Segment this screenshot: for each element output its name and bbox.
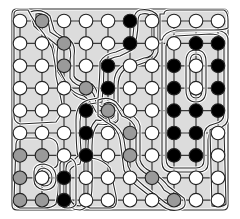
black-stone-r5c8[interactable] [167,104,181,118]
black-stone-r7c8[interactable] [167,149,181,163]
white-stone-r2c4[interactable] [79,37,93,51]
black-stone-r8c3[interactable] [57,171,71,185]
white-stone-r6c5[interactable] [101,126,115,140]
white-stone-r4c6[interactable] [123,81,137,95]
white-stone-r2c1[interactable] [13,37,27,51]
white-stone-r8c6[interactable] [123,171,137,185]
white-stone-r4c9[interactable] [189,81,203,95]
black-stone-r3c5[interactable] [101,59,115,73]
white-stone-r9c6[interactable] [123,193,137,207]
white-stone-r6c3[interactable] [57,126,71,140]
black-stone-r2c9[interactable] [189,37,203,51]
white-stone-r2c2[interactable] [35,37,49,51]
white-stone-r8c5[interactable] [101,171,115,185]
gray-stone-r9c2[interactable] [35,193,49,207]
white-stone-r3c6[interactable] [123,59,137,73]
black-stone-r1c6[interactable] [123,14,137,28]
white-stone-r5c2[interactable] [35,104,49,118]
white-stone-r9c9[interactable] [189,193,203,207]
black-stone-r2c6[interactable] [123,37,137,51]
white-stone-r7c10[interactable] [211,149,225,163]
white-stone-r4c2[interactable] [35,81,49,95]
white-stone-r6c7[interactable] [145,126,159,140]
gray-stone-r2c3[interactable] [57,37,71,51]
white-stone-r9c4[interactable] [79,193,93,207]
white-stone-r8c8[interactable] [167,171,181,185]
white-stone-r2c8[interactable] [167,37,181,51]
black-stone-r4c5[interactable] [101,81,115,95]
white-stone-r2c7[interactable] [145,37,159,51]
white-stone-r4c7[interactable] [145,81,159,95]
black-stone-r3c10[interactable] [211,59,225,73]
black-stone-r5c10[interactable] [211,104,225,118]
gray-stone-r1c2[interactable] [35,14,49,28]
black-stone-r5c9[interactable] [189,104,203,118]
black-stone-r2c10[interactable] [211,37,225,51]
white-stone-r1c8[interactable] [167,14,181,28]
white-stone-r1c1[interactable] [13,14,27,28]
white-stone-r3c2[interactable] [35,59,49,73]
gray-stone-r5c5[interactable] [101,104,115,118]
white-stone-r9c10[interactable] [211,193,225,207]
gray-stone-r9c8[interactable] [167,193,181,207]
white-stone-r1c7[interactable] [145,14,159,28]
white-stone-r8c2[interactable] [35,171,49,185]
gray-stone-r7c1[interactable] [13,149,27,163]
black-stone-r9c3[interactable] [57,193,71,207]
white-stone-r5c1[interactable] [13,104,27,118]
gray-stone-r4c4[interactable] [79,81,93,95]
gray-stone-r7c6[interactable] [123,149,137,163]
white-stone-r3c7[interactable] [145,59,159,73]
white-stone-r6c2[interactable] [35,126,49,140]
white-stone-r7c3[interactable] [57,149,71,163]
white-stone-r1c3[interactable] [57,14,71,28]
gray-stone-r7c2[interactable] [35,149,49,163]
white-stone-r8c9[interactable] [189,171,203,185]
white-stone-r3c1[interactable] [13,59,27,73]
gray-stone-r8c1[interactable] [13,171,27,185]
white-stone-r6c10[interactable] [211,126,225,140]
white-stone-r1c4[interactable] [79,14,93,28]
puzzle-board: Grid loop puzzle [0,0,240,219]
black-stone-r6c4[interactable] [79,126,93,140]
black-stone-r7c9[interactable] [189,149,203,163]
white-stone-r3c9[interactable] [189,59,203,73]
white-stone-r5c3[interactable] [57,104,71,118]
white-stone-r7c7[interactable] [145,149,159,163]
white-stone-r2c5[interactable] [101,37,115,51]
white-stone-r9c7[interactable] [145,193,159,207]
black-stone-r4c8[interactable] [167,81,181,95]
gray-stone-r8c7[interactable] [145,171,159,185]
white-stone-r4c1[interactable] [13,81,27,95]
white-stone-r1c5[interactable] [101,14,115,28]
black-stone-r6c8[interactable] [167,126,181,140]
black-stone-r6c9[interactable] [189,126,203,140]
black-stone-r5c4[interactable] [79,104,93,118]
white-stone-r9c5[interactable] [101,193,115,207]
white-stone-r8c10[interactable] [211,171,225,185]
white-stone-r5c6[interactable] [123,104,137,118]
gray-stone-r6c6[interactable] [123,126,137,140]
white-stone-r4c3[interactable] [57,81,71,95]
black-stone-r3c8[interactable] [167,59,181,73]
white-stone-r3c4[interactable] [79,59,93,73]
white-stone-r1c9[interactable] [189,14,203,28]
white-stone-r5c7[interactable] [145,104,159,118]
white-stone-r7c5[interactable] [101,149,115,163]
white-stone-r8c4[interactable] [79,171,93,185]
black-stone-r4c10[interactable] [211,81,225,95]
gray-stone-r9c1[interactable] [13,193,27,207]
gray-stone-r3c3[interactable] [57,59,71,73]
white-stone-r1c10[interactable] [211,14,225,28]
white-stone-r6c1[interactable] [13,126,27,140]
black-stone-r7c4[interactable] [79,149,93,163]
